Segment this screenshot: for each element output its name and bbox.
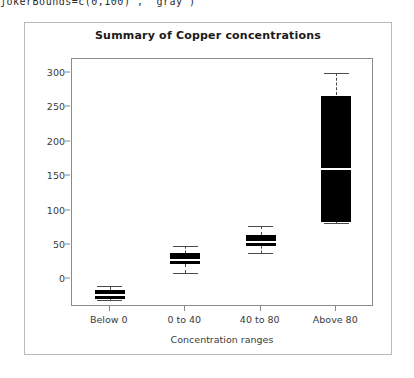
chart-panel: Summary of Copper concentrations 0501001… [24,22,392,355]
x-axis-tick-mark [184,306,185,311]
y-axis-tick-labels: 050100150200250300 [25,58,65,306]
x-axis-tick-label: Above 80 [313,314,358,325]
y-axis-tick-label: 150 [47,170,65,181]
whisker-upper [336,73,337,96]
plot-area [71,58,373,306]
chart-title: Summary of Copper concentrations [25,29,391,42]
x-axis-tick-mark [335,306,336,311]
y-axis-tick-mark [65,106,70,107]
y-axis-tick-label: 300 [47,66,65,77]
y-axis-tick-mark [65,244,70,245]
whisker-cap-lower [324,223,349,224]
y-axis-tick-mark [65,71,70,72]
boxplot-above-80 [72,59,372,305]
code-fragment-text: jokerBounds=c(0,100)", "gray") [0,0,414,9]
x-axis-tick-label: 40 to 80 [240,314,280,325]
x-axis-tick-mark [109,306,110,311]
y-axis-tick-mark [65,209,70,210]
whisker-cap-upper [324,73,349,74]
x-axis-tick-mark [260,306,261,311]
y-axis-tick-label: 100 [47,204,65,215]
box-iqr [321,96,351,223]
y-axis-tick-label: 250 [47,101,65,112]
x-axis-tick-label: Below 0 [90,314,128,325]
y-axis-tick-mark [65,140,70,141]
x-axis-tick-label: 0 to 40 [167,314,201,325]
median-line [321,168,351,170]
y-axis-tick-mark [65,278,70,279]
y-axis-tick-label: 50 [53,239,65,250]
x-axis-title: Concentration ranges [71,334,373,345]
y-axis-tick-mark [65,175,70,176]
y-axis-tick-label: 200 [47,135,65,146]
